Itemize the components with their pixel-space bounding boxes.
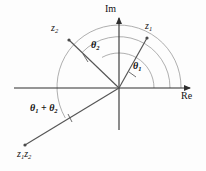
figure-canvas — [0, 0, 206, 171]
z1-subscript: 1 — [149, 25, 152, 32]
z1z2-subscript-1: 1 — [21, 153, 24, 160]
angle-label-theta2: θ2 — [91, 40, 99, 50]
angle-label-theta1-plus-theta2: θ1 + θ2 — [30, 103, 58, 113]
sum-operator: + — [38, 102, 49, 113]
point-z2 — [67, 38, 70, 41]
vector-z1z2 — [25, 88, 119, 145]
complex-plane-figure: Im Re z1 z2 z1z2 θ1 θ2 θ1 + θ2 — [0, 0, 206, 171]
sum-theta2-subscript: 2 — [54, 107, 57, 114]
sum-theta1-subscript: 1 — [35, 107, 38, 114]
z2-subscript: 2 — [55, 27, 58, 34]
real-axis-label: Re — [181, 91, 192, 101]
inner-arc-theta1 — [102, 53, 154, 88]
imaginary-axis-label: Im — [105, 4, 116, 14]
point-z1 — [145, 36, 148, 39]
point-z1z2 — [23, 143, 26, 146]
vector-label-z1z2: z1z2 — [17, 149, 31, 159]
z1z2-subscript-2: 2 — [28, 153, 31, 160]
theta1-subscript: 1 — [138, 65, 141, 72]
vector-label-z2: z2 — [51, 23, 58, 33]
angle-label-theta1: θ1 — [133, 61, 141, 71]
theta1-sweep-tick — [129, 72, 136, 77]
vector-label-z1: z1 — [145, 21, 152, 31]
theta2-subscript: 2 — [96, 44, 99, 51]
